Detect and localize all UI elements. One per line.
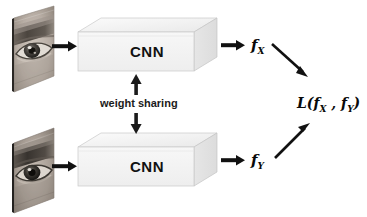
feature-label-bottom: fY	[251, 153, 264, 171]
eye-image-x	[12, 6, 56, 94]
cnn-label-bottom: CNN	[130, 159, 164, 174]
arrow-feature-top-to-loss	[272, 44, 308, 77]
siamese-network-diagram: CNN CNN weight sharing fX fY L(fX , fY)	[0, 0, 367, 217]
arrow-image-to-cnn-bottom	[52, 161, 77, 171]
arrow-weight-sharing-up	[131, 74, 142, 95]
loss-function-label: L(fX , fY)	[297, 96, 360, 114]
loss-separator: ,	[326, 95, 341, 111]
feature-subscript-top: X	[257, 46, 264, 56]
arrow-cnn-to-feature-bottom	[221, 155, 245, 165]
arrow-cnn-to-feature-top	[221, 40, 245, 50]
arrow-image-to-cnn-top	[52, 41, 77, 51]
arrow-feature-bottom-to-loss	[275, 123, 310, 158]
arrow-weight-sharing-down	[131, 113, 142, 134]
eye-image-y	[12, 128, 56, 214]
cnn-label-top: CNN	[130, 44, 164, 59]
weight-sharing-label: weight sharing	[100, 98, 178, 109]
feature-label-top: fX	[251, 38, 264, 56]
feature-subscript-bottom: Y	[257, 161, 263, 171]
loss-close-paren: )	[354, 95, 361, 111]
loss-name: L	[297, 95, 307, 111]
